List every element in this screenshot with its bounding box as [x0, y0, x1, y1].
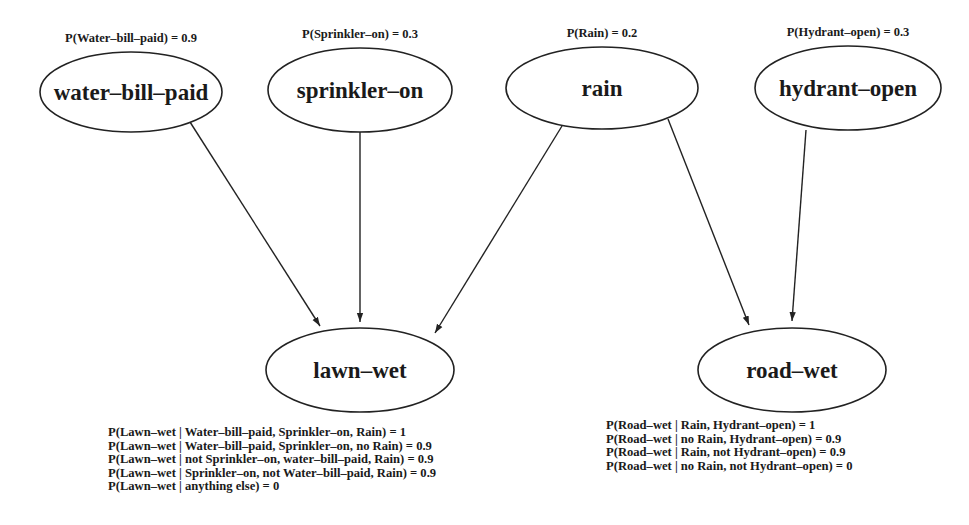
- edge-rain-to-road-wet: [668, 119, 749, 325]
- edge-hydrant-open-to-road-wet: [792, 130, 806, 321]
- edge-water-bill-paid-to-lawn-wet: [190, 122, 320, 326]
- cpt-lawn-wet-row: P(Lawn–wet | Sprinkler–on, not Water–bil…: [108, 467, 436, 481]
- prior-probability-label: P(Sprinkler–on) = 0.3: [302, 27, 418, 41]
- node-sprinkler-on: sprinkler–onP(Sprinkler–on) = 0.3: [268, 27, 452, 132]
- cpt-road-wet-row: P(Road–wet | Rain, Hydrant–open) = 1: [606, 419, 852, 433]
- cpt-road-wet-row: P(Road–wet | no Rain, Hydrant–open) = 0.…: [606, 433, 852, 447]
- cpt-road-wet-row: P(Road–wet | Rain, not Hydrant–open) = 0…: [606, 446, 852, 460]
- prior-probability-label: P(Rain) = 0.2: [567, 26, 638, 40]
- edge-rain-to-lawn-wet: [435, 126, 562, 333]
- node-label: road–wet: [746, 358, 838, 383]
- cpt-road-wet-row: P(Road–wet | no Rain, not Hydrant–open) …: [606, 460, 852, 474]
- node-label: hydrant–open: [779, 76, 917, 101]
- node-road-wet: road–wet: [698, 328, 886, 412]
- cpt-road-wet: P(Road–wet | Rain, Hydrant–open) = 1 P(R…: [606, 419, 852, 473]
- edges-layer: [190, 119, 806, 333]
- prior-probability-label: P(Hydrant–open) = 0.3: [787, 25, 910, 39]
- nodes-layer: water–bill–paidP(Water–bill–paid) = 0.9s…: [40, 25, 941, 412]
- cpt-lawn-wet-row: P(Lawn–wet | anything else) = 0: [108, 480, 436, 494]
- cpt-lawn-wet-row: P(Lawn–wet | not Sprinkler–on, water–bil…: [108, 453, 436, 467]
- node-water-bill-paid: water–bill–paidP(Water–bill–paid) = 0.9: [40, 31, 222, 132]
- node-label: rain: [582, 76, 623, 101]
- node-label: lawn–wet: [313, 358, 407, 383]
- node-label: sprinkler–on: [297, 78, 424, 103]
- node-rain: rainP(Rain) = 0.2: [506, 26, 698, 129]
- node-lawn-wet: lawn–wet: [266, 328, 454, 412]
- node-label: water–bill–paid: [54, 80, 209, 105]
- cpt-lawn-wet-row: P(Lawn–wet | Water–bill–paid, Sprinkler–…: [108, 440, 436, 454]
- node-hydrant-open: hydrant–openP(Hydrant–open) = 0.3: [755, 25, 941, 130]
- cpt-lawn-wet: P(Lawn–wet | Water–bill–paid, Sprinkler–…: [108, 426, 436, 494]
- prior-probability-label: P(Water–bill–paid) = 0.9: [65, 31, 197, 45]
- cpt-lawn-wet-row: P(Lawn–wet | Water–bill–paid, Sprinkler–…: [108, 426, 436, 440]
